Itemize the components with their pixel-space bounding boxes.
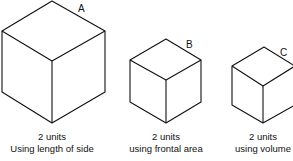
- cube-a-size: 2 units: [2, 131, 102, 143]
- cube-b-size: 2 units: [116, 131, 216, 143]
- cube-b-method: using frontal area: [116, 143, 216, 155]
- cube-b-caption: 2 units using frontal area: [116, 131, 216, 155]
- cube-b: [130, 39, 201, 123]
- cube-c-label: C: [280, 47, 287, 58]
- cube-c: [232, 47, 293, 123]
- cube-comparison-diagram: A B C 2 units Using length of side 2 uni…: [0, 0, 293, 161]
- cube-c-size: 2 units: [228, 131, 293, 143]
- cube-c-caption: 2 units using volume: [228, 131, 293, 155]
- cube-a-method: Using length of side: [2, 143, 102, 155]
- cube-b-label: B: [186, 39, 193, 50]
- cube-c-method: using volume: [228, 143, 293, 155]
- cube-a-caption: 2 units Using length of side: [2, 131, 102, 155]
- cube-a: [2, 1, 105, 123]
- cube-a-label: A: [78, 3, 85, 14]
